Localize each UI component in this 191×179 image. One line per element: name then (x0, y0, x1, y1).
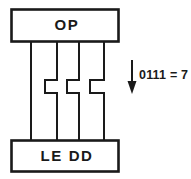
bus-line-4-jogged (90, 41, 104, 141)
bus-value-label: 0111 = 7 (139, 68, 188, 82)
ledd-block: LE DD (12, 141, 119, 172)
bus-line-3-jogged (67, 41, 79, 141)
op-block-label: OP (55, 16, 80, 33)
diagram-canvas: OP LE DD 0111 = 7 (0, 0, 191, 179)
ledd-block-label: LE DD (41, 147, 94, 164)
bus-line-2-jogged (45, 41, 57, 141)
down-arrow-icon (128, 60, 137, 94)
down-arrow-head (128, 81, 137, 94)
bus-lines (31, 41, 104, 141)
op-block: OP (12, 10, 119, 42)
block-diagram: OP LE DD 0111 = 7 (0, 0, 191, 179)
